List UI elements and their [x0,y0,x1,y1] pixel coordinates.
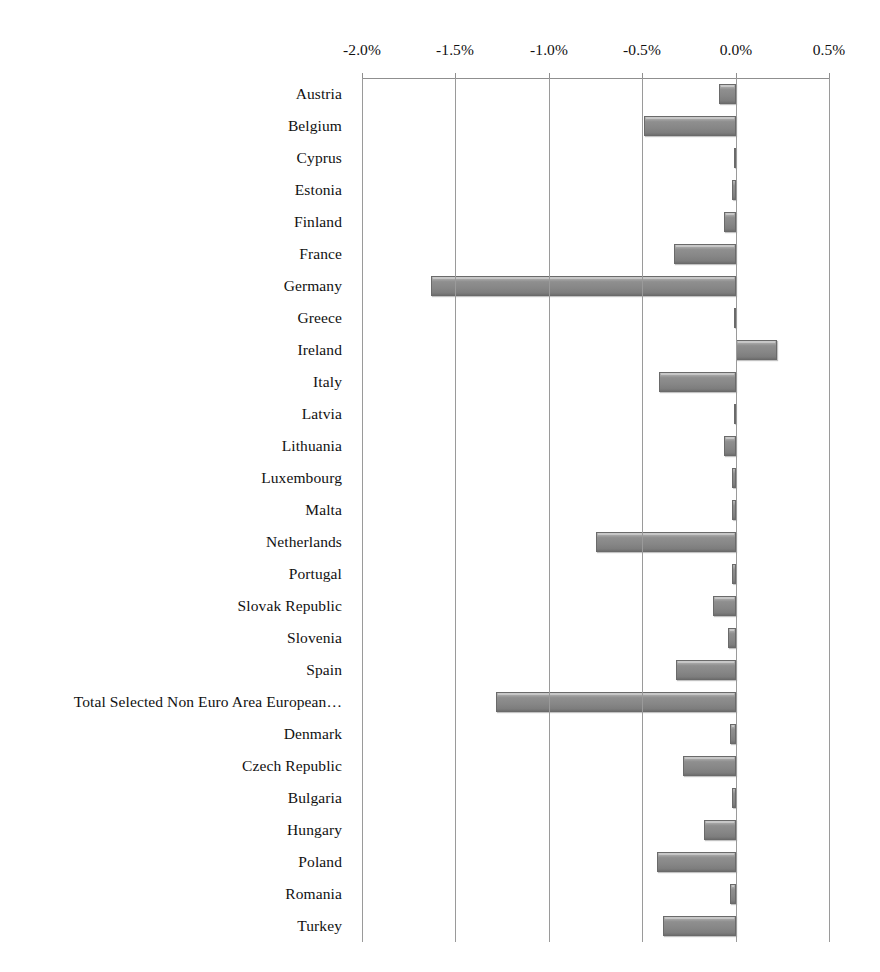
x-axis-tick [455,73,456,78]
bar [728,628,735,648]
category-label: Bulgaria [288,789,342,807]
x-axis-line [362,78,829,79]
x-axis-tick [549,73,550,78]
category-label: Netherlands [266,533,342,551]
category-label: Cyprus [297,149,342,167]
category-label: Estonia [295,181,342,199]
gridline [642,78,643,942]
category-label: Malta [305,501,342,519]
x-axis-tick [362,73,363,78]
category-label: Belgium [288,117,342,135]
bar-chart: -2.0%-1.5%-1.0%-0.5%0.0%0.5% AustriaBelg… [0,0,880,972]
plot-area [362,78,829,942]
bar [431,276,735,296]
bar [724,436,735,456]
bar [736,340,777,360]
category-label: Austria [296,85,342,103]
category-label: Slovenia [287,629,342,647]
category-label: Greece [298,309,342,327]
bar [704,820,736,840]
bar [730,724,736,744]
category-label: Slovak Republic [238,597,342,615]
bar [644,116,736,136]
category-label: France [299,245,342,263]
category-label: Portugal [289,565,342,583]
x-axis-tick-label: 0.0% [720,41,753,59]
category-label: Lithuania [282,437,342,455]
gridline [736,78,737,942]
x-axis-tick [736,73,737,78]
category-label: Italy [313,373,342,391]
category-label: Turkey [297,917,342,935]
bar [674,244,736,264]
bar [596,532,736,552]
category-label: Ireland [297,341,342,359]
bar [683,756,735,776]
category-label: Hungary [287,821,342,839]
x-axis-tick [829,73,830,78]
x-axis-tick-label: -1.0% [530,41,568,59]
bar [496,692,735,712]
bar [724,212,735,232]
category-label: Spain [306,661,342,679]
bar [730,884,736,904]
gridline [455,78,456,942]
bar [659,372,736,392]
x-axis-tick [642,73,643,78]
bar [713,596,735,616]
category-label: Finland [294,213,342,231]
category-label: Germany [284,277,342,295]
x-axis-tick-label: -1.5% [436,41,474,59]
category-label: Denmark [284,725,342,743]
category-label: Poland [298,853,342,871]
x-axis-tick-label: 0.5% [813,41,846,59]
bar [657,852,735,872]
bar [676,660,736,680]
gridline [549,78,550,942]
x-axis-tick-label: -2.0% [343,41,381,59]
bar [719,84,736,104]
category-label: Total Selected Non Euro Area European… [74,693,342,711]
category-label: Latvia [302,405,342,423]
bar [663,916,736,936]
category-label: Luxembourg [261,469,342,487]
category-label: Romania [285,885,342,903]
x-axis-tick-label: -0.5% [623,41,661,59]
category-label: Czech Republic [242,757,342,775]
gridline [829,78,830,942]
gridline [362,78,363,942]
